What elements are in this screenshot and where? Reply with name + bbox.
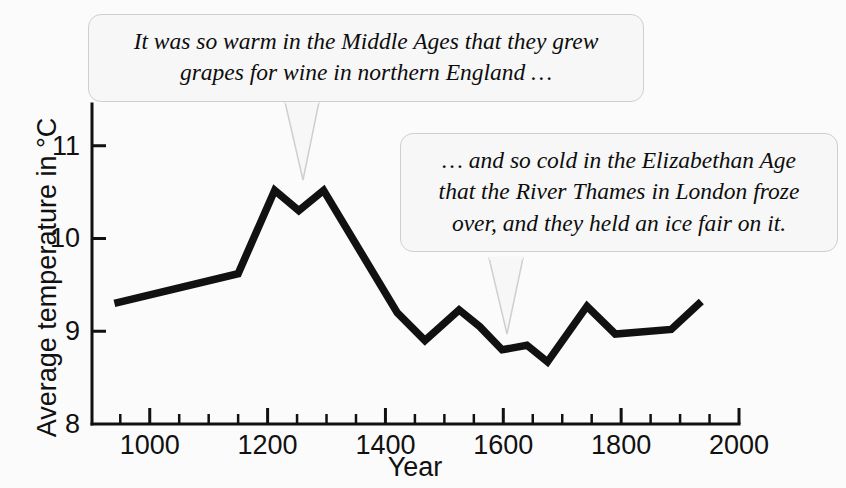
y-axis-title: Average temperature in °C <box>32 113 63 443</box>
elizabethan-bubble-tail <box>487 256 527 338</box>
annotation-elizabethan-line3: over, and they held an ice fair on it. <box>417 208 821 239</box>
annotation-medieval-line1: It was so warm in the Middle Ages that t… <box>105 26 627 57</box>
annotation-bubble-elizabethan: … and so cold in the Elizabethan Age tha… <box>400 133 838 252</box>
medieval-bubble-tail <box>283 100 323 184</box>
x-tick-label: 1800 <box>591 430 651 461</box>
x-tick-label: 1000 <box>120 430 180 461</box>
annotation-elizabethan-line1: … and so cold in the Elizabethan Age <box>417 145 821 176</box>
x-tick-label: 1200 <box>238 430 298 461</box>
annotation-elizabethan-line2: that the River Thames in London froze <box>417 176 821 207</box>
x-tick-label: 2000 <box>709 430 769 461</box>
chart-figure: It was so warm in the Middle Ages that t… <box>0 0 846 488</box>
annotation-bubble-medieval: It was so warm in the Middle Ages that t… <box>88 14 644 102</box>
y-axis-ticks <box>92 146 106 332</box>
x-axis-title: Year <box>388 452 443 483</box>
annotation-medieval-line2: grapes for wine in northern England … <box>105 57 627 88</box>
x-tick-label: 1600 <box>473 430 533 461</box>
